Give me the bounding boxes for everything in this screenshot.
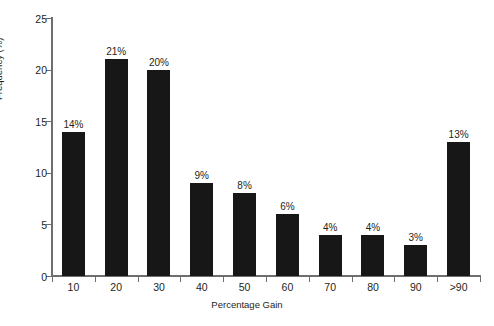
x-axis-tick-mark [480,276,481,282]
bar-value-label: 20% [149,58,169,68]
y-axis-title: Frequency (%) [0,38,4,100]
x-axis-tick-mark [138,276,139,282]
x-axis-tick-mark [52,276,53,282]
bar-value-label: 13% [449,130,469,140]
bar-slot: 13% [437,18,480,276]
x-axis-category-label: 90 [410,282,422,293]
bar-slot: 21% [95,18,138,276]
x-axis-category-label: 10 [68,282,80,293]
y-axis-tick-label: 5 [41,220,47,231]
x-axis-category-label: 40 [196,282,208,293]
y-axis-tick-label: 15 [35,116,47,127]
x-axis-tick-mark [95,276,96,282]
bar-chart: 0510152025 14%21%20%9%8%6%4%4%3%13% 1020… [0,0,494,326]
bar[interactable]: 6% [276,214,299,276]
bar-slot: 9% [180,18,223,276]
x-axis-category-label: >90 [450,282,468,293]
x-axis-tick-mark [223,276,224,282]
bar-slot: 8% [223,18,266,276]
bar-slot: 4% [309,18,352,276]
y-axis-tick-label: 10 [35,168,47,179]
x-axis-category-label: 70 [324,282,336,293]
x-axis-title: Percentage Gain [0,300,494,310]
bar-value-label: 14% [63,120,83,130]
bar-value-label: 4% [323,223,337,233]
x-axis-category-label: 60 [282,282,294,293]
bar-value-label: 8% [237,181,251,191]
bar-value-label: 21% [106,47,126,57]
x-axis-category-label: 80 [367,282,379,293]
x-axis-category-label: 30 [153,282,165,293]
y-axis-tick-label: 25 [35,13,47,24]
x-axis-tick-mark [352,276,353,282]
bar[interactable]: 9% [190,183,213,276]
x-axis-tick-mark [266,276,267,282]
bar[interactable]: 14% [62,132,85,276]
bar-slot: 14% [52,18,95,276]
bar[interactable]: 8% [233,193,256,276]
bar[interactable]: 13% [447,142,470,276]
bar[interactable]: 3% [404,245,427,276]
bar[interactable]: 4% [361,235,384,276]
x-axis-tick-mark [180,276,181,282]
plot-area: 0510152025 14%21%20%9%8%6%4%4%3%13% [52,18,480,276]
bar-value-label: 4% [366,223,380,233]
bar[interactable]: 20% [147,70,170,276]
bar-slot: 20% [138,18,181,276]
x-axis-tick-mark [394,276,395,282]
bar-value-label: 3% [409,233,423,243]
x-axis-category-label: 50 [239,282,251,293]
y-axis-tick-label: 20 [35,65,47,76]
x-axis-category-label: 20 [110,282,122,293]
bar-slot: 6% [266,18,309,276]
x-axis-tick-mark [437,276,438,282]
bar-slot: 4% [352,18,395,276]
bar[interactable]: 4% [319,235,342,276]
bar-slot: 3% [394,18,437,276]
y-axis-tick-label: 0 [41,271,47,282]
bar-value-label: 6% [280,202,294,212]
x-axis-tick-mark [309,276,310,282]
bar-value-label: 9% [195,171,209,181]
bar[interactable]: 21% [105,59,128,276]
